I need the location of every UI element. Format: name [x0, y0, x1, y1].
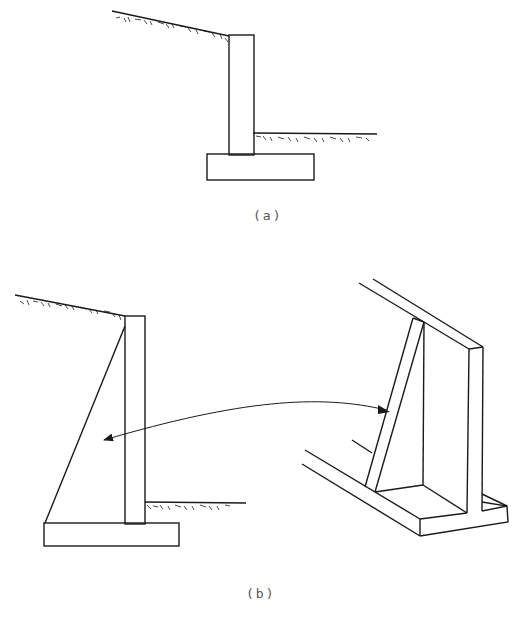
- wall-face-left: [467, 349, 469, 513]
- wall-top-edge-back: [373, 279, 483, 347]
- wall-stem: [229, 35, 254, 155]
- front-ground: [253, 133, 377, 134]
- base-right-top: [482, 506, 507, 511]
- front-ground: [145, 502, 246, 503]
- soil-hatch-upper: [116, 17, 228, 42]
- counterfort-edge: [45, 326, 125, 523]
- retaining-wall-diagram: [0, 0, 518, 627]
- hidden-rib: [352, 440, 372, 453]
- figure-a: [112, 11, 377, 180]
- caption-b: (b): [246, 586, 275, 601]
- figure-b-perspective: [302, 279, 508, 536]
- soil-hatch-lower: [256, 136, 369, 142]
- backfill-slope: [112, 11, 229, 36]
- wall-cap: [469, 347, 483, 349]
- base-inner-line: [375, 485, 423, 492]
- counterfort-back: [423, 322, 424, 485]
- base-front-face-lower: [420, 502, 508, 536]
- counterfort-inner: [375, 322, 424, 492]
- soil-hatch-lower: [147, 505, 230, 510]
- connector-arrow: [104, 402, 386, 440]
- base-front-face: [420, 513, 467, 519]
- soil-hatch-upper: [20, 300, 121, 320]
- wall-top-edge-front: [359, 283, 469, 349]
- base-bottom-edge: [302, 464, 420, 536]
- wall-stem: [125, 316, 145, 524]
- footing: [44, 523, 179, 546]
- figure-b-section: [15, 295, 246, 546]
- counterfort-outer: [365, 318, 413, 487]
- wall-face-right: [482, 347, 483, 511]
- base-top-edge: [305, 450, 420, 519]
- footing: [207, 154, 314, 180]
- base-inner-diag: [423, 485, 467, 513]
- backfill-slope: [15, 295, 125, 316]
- caption-a: (a): [253, 208, 282, 223]
